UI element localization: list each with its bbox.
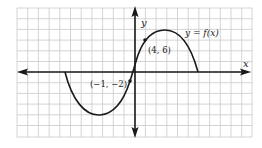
point-marker-neg1-neg2 (128, 79, 132, 83)
function-label: y = f(x) (184, 28, 219, 38)
function-graph: y x y = f(x) (4, 6) (−1, −2) (0, 0, 262, 148)
y-axis-label: y (140, 17, 147, 28)
point-label-neg1-neg2: (−1, −2) (90, 79, 127, 89)
point-marker-4-6 (143, 38, 147, 42)
x-axis-label: x (243, 58, 249, 69)
point-label-4-6: (4, 6) (148, 45, 171, 55)
